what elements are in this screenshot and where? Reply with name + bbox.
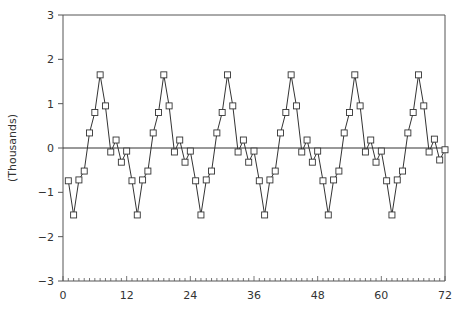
x-tick-label: 72 — [438, 289, 452, 302]
data-point-marker — [171, 149, 177, 155]
data-point-marker — [118, 159, 124, 165]
data-point-marker — [278, 130, 284, 136]
data-point-marker — [293, 103, 299, 109]
data-point-marker — [347, 110, 353, 116]
data-point-marker — [81, 168, 87, 174]
x-tick-label: 12 — [120, 289, 134, 302]
series-line — [68, 75, 445, 215]
x-axis: 0122436486072 — [60, 276, 453, 302]
data-point-marker — [405, 130, 411, 136]
data-point-marker — [187, 148, 193, 154]
data-point-marker — [246, 159, 252, 165]
y-tick-label: 0 — [47, 142, 54, 155]
data-point-marker — [166, 103, 172, 109]
data-point-marker — [431, 136, 437, 142]
y-tick-label: 2 — [47, 53, 54, 66]
data-point-marker — [87, 130, 93, 136]
data-point-marker — [161, 72, 167, 78]
data-point-marker — [177, 137, 183, 143]
data-point-marker — [182, 159, 188, 165]
data-point-marker — [304, 137, 310, 143]
data-point-marker — [209, 168, 215, 174]
y-tick-label: 3 — [47, 9, 54, 22]
data-point-marker — [256, 178, 262, 184]
data-point-marker — [389, 212, 395, 218]
data-point-marker — [442, 147, 448, 153]
data-point-marker — [426, 149, 432, 155]
data-point-marker — [113, 137, 119, 143]
data-point-marker — [230, 103, 236, 109]
data-point-marker — [373, 159, 379, 165]
data-point-marker — [309, 159, 315, 165]
data-point-marker — [97, 72, 103, 78]
data-point-marker — [325, 212, 331, 218]
data-point-marker — [368, 137, 374, 143]
y-tick-label: −1 — [38, 186, 54, 199]
data-point-marker — [203, 177, 209, 183]
data-point-marker — [219, 110, 225, 116]
data-point-marker — [251, 148, 257, 154]
x-tick-label: 48 — [311, 289, 325, 302]
data-point-marker — [140, 177, 146, 183]
data-point-marker — [92, 110, 98, 116]
data-point-marker — [240, 137, 246, 143]
data-point-marker — [378, 148, 384, 154]
y-tick-label: 1 — [47, 98, 54, 111]
x-tick-label: 0 — [60, 289, 67, 302]
data-point-marker — [400, 168, 406, 174]
data-point-marker — [214, 130, 220, 136]
data-point-marker — [156, 110, 162, 116]
data-point-marker — [384, 178, 390, 184]
data-point-marker — [124, 148, 130, 154]
data-point-marker — [315, 148, 321, 154]
data-markers — [65, 72, 448, 218]
data-point-marker — [134, 212, 140, 218]
line-chart: −3−2−10123 0122436486072 (Thousands) — [0, 0, 462, 311]
data-point-marker — [129, 178, 135, 184]
data-point-marker — [102, 103, 108, 109]
data-point-marker — [65, 178, 71, 184]
data-point-marker — [362, 149, 368, 155]
data-point-marker — [331, 177, 337, 183]
data-point-marker — [272, 168, 278, 174]
data-point-marker — [145, 168, 151, 174]
data-point-marker — [352, 72, 358, 78]
data-point-marker — [235, 149, 241, 155]
data-point-marker — [193, 178, 199, 184]
data-point-marker — [198, 212, 204, 218]
data-point-marker — [410, 110, 416, 116]
data-point-marker — [357, 103, 363, 109]
data-point-marker — [299, 149, 305, 155]
data-point-marker — [394, 177, 400, 183]
y-tick-label: −2 — [38, 231, 54, 244]
x-tick-label: 24 — [183, 289, 197, 302]
data-point-marker — [108, 149, 114, 155]
y-axis-title: (Thousands) — [6, 114, 19, 182]
data-point-marker — [288, 72, 294, 78]
data-point-marker — [283, 110, 289, 116]
data-point-marker — [267, 177, 273, 183]
x-tick-label: 60 — [374, 289, 388, 302]
data-point-marker — [71, 212, 77, 218]
data-point-marker — [76, 177, 82, 183]
data-point-marker — [341, 130, 347, 136]
data-point-marker — [421, 103, 427, 109]
data-point-marker — [150, 130, 156, 136]
x-tick-label: 36 — [247, 289, 261, 302]
y-axis: −3−2−10123 — [38, 9, 63, 288]
data-point-marker — [262, 212, 268, 218]
data-point-marker — [437, 157, 443, 163]
y-tick-label: −3 — [38, 275, 54, 288]
data-point-marker — [224, 72, 230, 78]
data-point-marker — [415, 72, 421, 78]
data-point-marker — [336, 168, 342, 174]
data-point-marker — [320, 178, 326, 184]
